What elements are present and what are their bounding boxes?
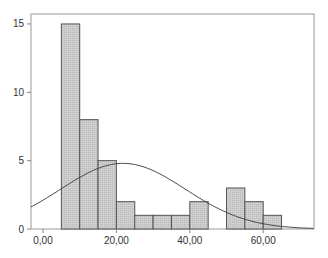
histogram-bar xyxy=(153,215,171,229)
y-tick-label: 15 xyxy=(13,18,25,29)
histogram-bar xyxy=(80,120,98,229)
y-tick-label: 0 xyxy=(18,224,24,235)
histogram-bar xyxy=(171,215,189,229)
histogram-bar xyxy=(227,188,245,229)
y-tick-label: 5 xyxy=(18,155,24,166)
x-tick-label: 0,00 xyxy=(33,235,53,246)
histogram-bar xyxy=(61,24,79,229)
histogram-bar xyxy=(98,161,116,229)
y-axis: 051015 xyxy=(13,18,31,234)
x-tick-label: 20,00 xyxy=(104,235,129,246)
x-tick-label: 40,00 xyxy=(177,235,202,246)
x-axis: 0,0020,0040,0060,00 xyxy=(33,229,276,246)
y-tick-label: 10 xyxy=(13,87,25,98)
x-tick-label: 60,00 xyxy=(251,235,276,246)
histogram-bar xyxy=(245,202,263,229)
histogram-bar xyxy=(135,215,153,229)
histogram-bar xyxy=(263,215,281,229)
histogram-bar xyxy=(116,202,134,229)
histogram-bar xyxy=(190,202,208,229)
histogram-chart: 051015 0,0020,0040,0060,00 xyxy=(0,0,328,258)
